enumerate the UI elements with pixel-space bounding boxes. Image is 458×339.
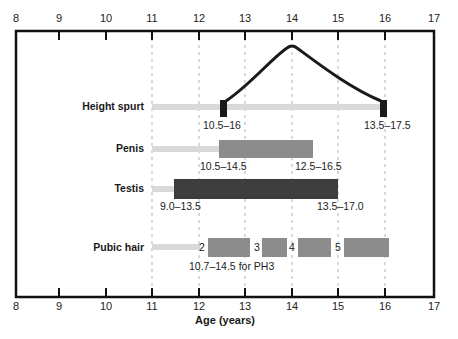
height-spurt-end-marker [380, 100, 387, 117]
top-tick-label: 8 [13, 12, 19, 24]
height-spurt-start-marker [220, 100, 227, 117]
bottom-tick-label: 10 [100, 300, 112, 312]
pubic-hair-stage-3-bar [262, 238, 287, 257]
bottom-tick-label: 14 [286, 300, 298, 312]
penis-growth-bar [219, 140, 313, 158]
row-label-testis: Testis [14, 182, 144, 194]
grid-lines [152, 31, 385, 297]
pubic-hair-ph3-range: 10.7–14.5 for PH3 [189, 260, 274, 272]
pubic-hair-stage-2-bar [208, 238, 250, 257]
testis-prebar [152, 186, 174, 192]
height-spurt-bar [152, 104, 385, 110]
pubic-hair-stage-4-bar [298, 238, 331, 257]
row-label-pubic-hair: Pubic hair [14, 241, 144, 253]
bottom-tick-label: 9 [56, 300, 62, 312]
bottom-tick-label: 16 [379, 300, 391, 312]
top-tick-label: 17 [428, 12, 440, 24]
testis-onset-range: 9.0–13.5 [160, 200, 201, 212]
top-ticks [59, 31, 385, 40]
height-spurt-end-range: 13.5–17.5 [364, 119, 411, 131]
testis-end-range: 13.5–17.0 [317, 200, 364, 212]
testis-growth-bar [174, 179, 338, 199]
top-tick-label: 12 [193, 12, 205, 24]
pubic-hair-prebar [152, 244, 200, 250]
top-tick-label: 15 [332, 12, 344, 24]
pubic-hair-stage-5-bar [344, 238, 389, 257]
x-axis-label: Age (years) [195, 314, 255, 326]
bottom-tick-label: 17 [428, 300, 440, 312]
top-tick-label: 9 [56, 12, 62, 24]
top-tick-label: 11 [146, 12, 157, 24]
penis-onset-range: 10.5–14.5 [200, 160, 247, 172]
pubic-hair-stage-2-label: 2 [199, 241, 205, 253]
pubic-hair-stage-3-label: 3 [254, 241, 260, 253]
bottom-ticks [59, 288, 385, 297]
top-tick-label: 14 [286, 12, 298, 24]
bottom-tick-label: 15 [332, 300, 344, 312]
bottom-tick-label: 11 [146, 300, 157, 312]
penis-end-range: 12.5–16.5 [295, 160, 342, 172]
bottom-tick-label: 12 [193, 300, 205, 312]
puberty-timeline-chart: 8 9 10 11 12 13 14 15 16 17 8 9 10 11 12… [0, 0, 458, 339]
pubic-hair-stage-5-label: 5 [335, 241, 341, 253]
row-label-height-spurt: Height spurt [14, 100, 144, 112]
bottom-tick-label: 8 [13, 300, 19, 312]
penis-prebar [152, 146, 219, 152]
row-label-penis: Penis [14, 142, 144, 154]
height-velocity-curve [226, 46, 381, 101]
bottom-tick-label: 13 [239, 300, 251, 312]
height-spurt-onset-range: 10.5–16 [203, 119, 241, 131]
top-tick-label: 13 [239, 12, 251, 24]
top-tick-label: 10 [100, 12, 112, 24]
pubic-hair-stage-4-label: 4 [289, 241, 295, 253]
top-tick-label: 16 [379, 12, 391, 24]
